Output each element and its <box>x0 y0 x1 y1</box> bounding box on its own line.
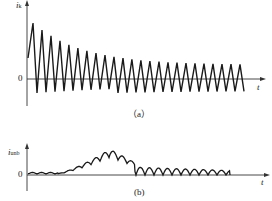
panel-a-x-arrow-icon <box>260 77 266 81</box>
panel-a-y-arrow-icon <box>25 0 29 6</box>
panel-b-x-arrow-icon <box>264 173 270 177</box>
panel-a-waveform <box>28 23 244 93</box>
panel-b-origin-label: 0 <box>18 169 23 179</box>
panel-b-y-label: iunb <box>8 147 20 157</box>
panel-b-waveform <box>28 151 230 175</box>
panel-a-origin-label: 0 <box>18 73 23 83</box>
panel-b-axes <box>25 143 270 191</box>
panel-a-x-label: t <box>257 82 260 92</box>
figure-canvas <box>0 0 272 201</box>
panel-a-caption: （a） <box>128 107 150 120</box>
panel-b-caption: (b) <box>134 187 145 197</box>
panel-b-x-label: t <box>261 177 264 187</box>
panel-b-y-arrow-icon <box>25 143 29 149</box>
panel-a-y-label: ik <box>16 0 22 10</box>
